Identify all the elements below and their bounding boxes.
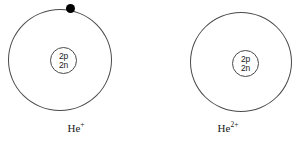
charge-superscript: 2+ [230,120,238,129]
nucleus-neutrons-label: 2n [241,64,250,73]
nucleus-circle: 2p 2n [232,50,259,77]
atom-diagram-helium-2-plus: 2p 2n He2+ [152,0,304,151]
charge-superscript: + [80,120,84,129]
helium-bohr-model-figure: 2p 2n He+ 2p 2n He2+ [0,0,305,151]
atom-diagram-helium-plus: 2p 2n He+ [0,0,152,151]
element-symbol: He [218,122,231,134]
electron-dot [66,4,75,13]
atom-caption: He+ [0,122,152,134]
nucleus-neutrons-label: 2n [59,61,68,70]
element-symbol: He [67,122,80,134]
nucleus-circle: 2p 2n [50,47,77,74]
atom-caption: He2+ [152,122,304,134]
